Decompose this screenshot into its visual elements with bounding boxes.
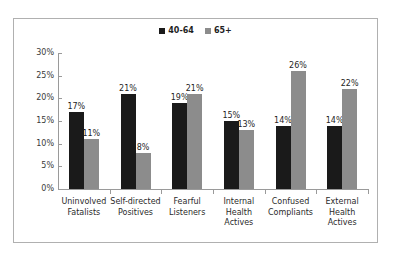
bar-value-label: 17%	[67, 102, 85, 111]
bar: 21%	[121, 94, 136, 189]
y-axis-tick-label: 0%	[41, 184, 54, 193]
bar-value-label: 26%	[289, 61, 307, 70]
bar-value-label: 14%	[274, 116, 292, 125]
y-axis-tick-label: 20%	[36, 93, 54, 102]
bar-value-label: 19%	[171, 93, 189, 102]
bar-value-label: 15%	[222, 111, 240, 120]
bar-value-label: 11%	[82, 129, 100, 138]
legend-entry-series-0: 40-64	[159, 27, 194, 35]
bar: 14%	[327, 126, 342, 189]
y-axis-tick-label: 15%	[36, 116, 54, 125]
x-axis-tick	[213, 190, 214, 194]
bar: 17%	[69, 112, 84, 189]
x-axis-tick	[161, 190, 162, 194]
x-axis-tick	[110, 190, 111, 194]
bar-value-label: 14%	[326, 116, 344, 125]
bar: 22%	[342, 89, 357, 189]
x-axis-tick	[368, 190, 369, 194]
x-axis-category-label: Confused Compliants	[265, 197, 317, 218]
chart-frame: 40-64 65+ 0%5%10%15%20%25%30% 17%11%21%8…	[13, 18, 378, 243]
x-axis-category-label: Self-directed Positives	[110, 197, 162, 218]
y-axis-tick: 0%	[58, 189, 62, 190]
legend-entry-series-1: 65+	[205, 27, 232, 35]
bar: 14%	[276, 126, 291, 189]
bar-value-label: 21%	[119, 84, 137, 93]
legend-label-40-64: 40-64	[168, 27, 194, 35]
x-axis-category-label: Fearful Listeners	[161, 197, 213, 218]
y-axis-tick-label: 5%	[41, 161, 54, 170]
bar: 13%	[239, 130, 254, 189]
legend-swatch-40-64	[159, 28, 165, 34]
bar: 15%	[224, 121, 239, 189]
bar-value-label: 8%	[137, 143, 150, 152]
chart-legend: 40-64 65+	[14, 27, 377, 35]
bar-value-label: 21%	[186, 84, 204, 93]
bar: 26%	[291, 71, 306, 189]
y-axis-tick-label: 10%	[36, 139, 54, 148]
bar: 21%	[187, 94, 202, 189]
bar: 11%	[84, 139, 99, 189]
plot-area: 17%11%21%8%19%21%15%13%14%26%14%22%	[58, 53, 368, 189]
bar-value-label: 13%	[237, 120, 255, 129]
legend-label-65-plus: 65+	[214, 27, 232, 35]
y-axis-tick-label: 25%	[36, 71, 54, 80]
x-axis-tick	[265, 190, 266, 194]
bar: 8%	[136, 153, 151, 189]
bar: 19%	[172, 103, 187, 189]
x-axis-tick	[316, 190, 317, 194]
bar-value-label: 22%	[341, 79, 359, 88]
x-axis-category-label: Uninvolved Fatalists	[58, 197, 110, 218]
y-axis-tick-label: 30%	[36, 48, 54, 57]
x-axis-category-label: External Health Actives	[316, 197, 368, 229]
legend-swatch-65-plus	[205, 28, 211, 34]
x-axis-category-label: Internal Health Actives	[213, 197, 265, 229]
